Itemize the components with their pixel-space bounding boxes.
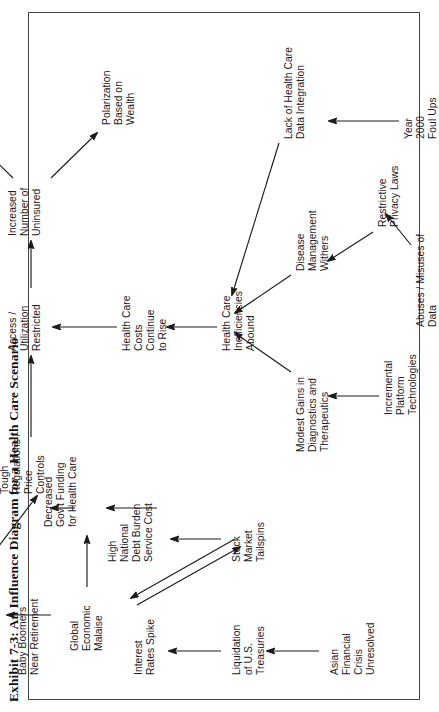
diagram-edges — [29, 11, 421, 699]
node-health-care-inefficiencies-abound[interactable]: Health Care Inefficiencies Abound — [221, 291, 257, 351]
node-high-national-debt-burden[interactable]: High National Debt Burden Service Cost — [107, 503, 155, 562]
node-baby-boomers-near-retirement[interactable]: Baby Boomers Near Retirement — [17, 599, 41, 675]
edge-uninsured-to-polarization — [51, 133, 97, 178]
node-increased-number-uninsured[interactable]: Increased Number of Uninsured — [7, 187, 43, 236]
node-incremental-platform-technologies[interactable]: Incremental Platform Technologies — [383, 354, 419, 415]
diagram-frame: Asian Financial Crisis Unresolved Liquid… — [28, 12, 420, 700]
node-disease-management-withers[interactable]: Disease Management Withers — [295, 210, 331, 271]
node-stock-market-tailspins[interactable]: Stock Market Tailspins — [231, 522, 267, 562]
diagram-canvas: Asian Financial Crisis Unresolved Liquid… — [29, 11, 421, 699]
edge-privacy-to-disease — [328, 232, 373, 261]
node-health-care-costs-continue-rise[interactable]: Health Care Costs Continue to Rise — [121, 296, 169, 352]
node-polarization-based-on-wealth[interactable]: Polarization Based on Wealth — [101, 71, 137, 125]
node-year-2000-foul-ups[interactable]: Year 2000 Foul Ups — [403, 97, 439, 139]
node-lack-health-care-data-integration[interactable]: Lack of Health Care Data Integration — [283, 47, 307, 139]
edge-uninsured-to-quack — [0, 133, 13, 178]
node-global-economic-malaise[interactable]: Global Economic Malaise — [69, 605, 105, 651]
node-abuses-misuses-of-data[interactable]: Abuses / Misuses of Data — [415, 234, 439, 327]
edge-lackdata-to-inefficiency — [232, 143, 279, 295]
node-access-utilization-restricted[interactable]: Access / Utilization Restricted — [7, 304, 43, 351]
node-restrictive-privacy-laws[interactable]: Restrictive Privacy Laws — [377, 166, 401, 227]
node-asian-financial-crisis[interactable]: Asian Financial Crisis Unresolved — [329, 622, 377, 675]
node-modest-gains-diagnostics[interactable]: Modest Gains in Diagnostics and Therapeu… — [295, 377, 331, 452]
node-liquidation-treasuries[interactable]: Liquidation of U.S. Treasuries — [231, 625, 267, 675]
node-interest-rates-spike[interactable]: Interest Rates Spike — [133, 619, 157, 675]
node-decreased-govt-funding[interactable]: Decreased Gov't Funding for Health Care — [43, 456, 79, 527]
node-tough-regulations-price-controls[interactable]: Tough Regulations / Price Controls — [0, 433, 47, 494]
